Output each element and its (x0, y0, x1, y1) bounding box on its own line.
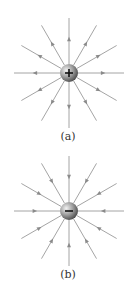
field-arrow-icon (33, 71, 38, 75)
field-arrow-icon (67, 105, 71, 110)
field-arrow-icon (101, 71, 106, 75)
panel-label-b: (b) (0, 268, 136, 281)
electric-field-diagram (0, 0, 136, 296)
field-arrow-icon (67, 175, 71, 180)
field-arrow-icon (67, 243, 71, 248)
field-arrow-icon (67, 37, 71, 42)
negative-charge-panel (14, 156, 124, 266)
field-arrow-icon (33, 209, 38, 213)
positive-charge-panel (14, 18, 124, 128)
panel-label-a: (a) (0, 130, 136, 143)
field-arrow-icon (101, 209, 106, 213)
